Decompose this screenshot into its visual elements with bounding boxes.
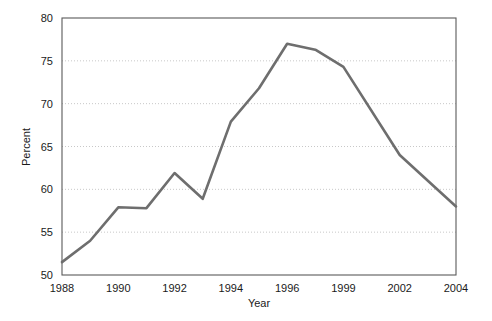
x-axis-title: Year [248,297,271,309]
line-chart: 50556065707580 1988199019921994199619992… [0,0,492,321]
x-tick-label: 1990 [106,282,130,294]
x-tick-label: 1994 [219,282,243,294]
chart-canvas: 50556065707580 1988199019921994199619992… [0,0,492,321]
y-tick-label: 60 [41,183,53,195]
x-tick-label: 1999 [331,282,355,294]
x-tick-label: 2004 [444,282,468,294]
x-tick-label: 1988 [50,282,74,294]
y-tick-label: 80 [41,12,53,24]
y-axis-title: Percent [20,128,32,166]
y-tick-label: 70 [41,98,53,110]
y-tick-label: 75 [41,55,53,67]
chart-background [0,0,492,321]
x-tick-label: 1996 [275,282,299,294]
x-tick-label: 1992 [162,282,186,294]
y-tick-label: 50 [41,269,53,281]
y-tick-label: 55 [41,226,53,238]
x-tick-label: 2002 [387,282,411,294]
y-tick-label: 65 [41,141,53,153]
